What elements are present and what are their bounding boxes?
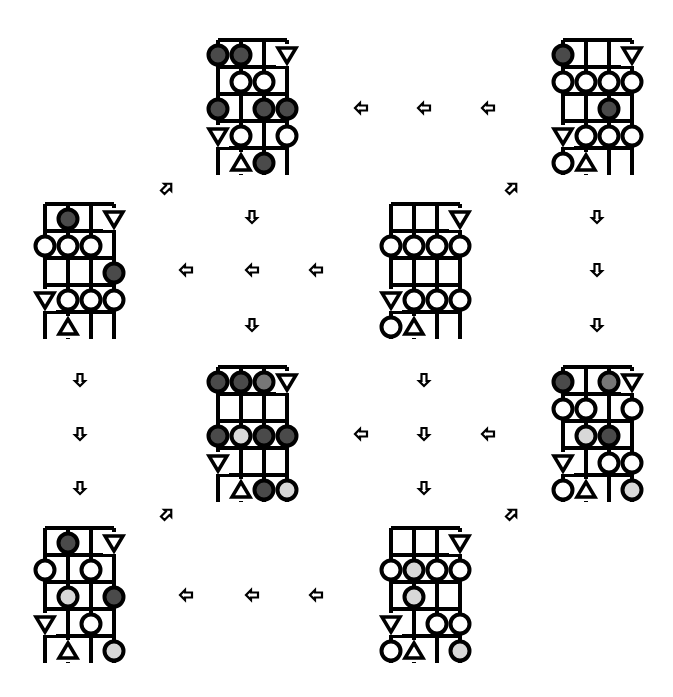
- white-circle-icon: [382, 237, 401, 256]
- arrow-left-icon: [482, 429, 494, 439]
- dark-circle-icon: [232, 373, 251, 392]
- arrow-left-icon: [418, 103, 430, 113]
- white-circle-icon: [451, 561, 470, 580]
- white-circle-icon: [405, 291, 424, 310]
- dark-circle-icon: [209, 46, 228, 65]
- white-circle-icon: [255, 73, 274, 92]
- arrow-left-icon: [310, 590, 322, 600]
- white-circle-icon: [623, 73, 642, 92]
- dark-circle-icon: [59, 534, 78, 553]
- white-circle-icon: [623, 454, 642, 473]
- white-circle-icon: [554, 154, 573, 173]
- arrow-down-icon: [75, 374, 85, 386]
- dark-circle-icon: [232, 46, 251, 65]
- arrow-left-icon: [180, 265, 192, 275]
- dark-circle-icon: [105, 588, 124, 607]
- white-circle-icon: [232, 73, 251, 92]
- dark-circle-icon: [255, 100, 274, 119]
- arrow-left-icon: [180, 590, 192, 600]
- white-circle-icon: [36, 237, 55, 256]
- white-circle-icon: [428, 561, 447, 580]
- arrow-down-icon: [247, 319, 257, 331]
- white-circle-icon: [554, 73, 573, 92]
- panel-5: [207, 367, 298, 502]
- white-circle-icon: [428, 291, 447, 310]
- light-circle-icon: [105, 642, 124, 661]
- panel-7: [34, 528, 125, 663]
- arrow-up-right-icon: [159, 180, 175, 196]
- white-circle-icon: [59, 237, 78, 256]
- dark-circle-icon: [209, 373, 228, 392]
- white-circle-icon: [554, 481, 573, 500]
- light-circle-icon: [59, 588, 78, 607]
- white-circle-icon: [232, 127, 251, 146]
- white-circle-icon: [577, 127, 596, 146]
- white-circle-icon: [428, 615, 447, 634]
- white-circle-icon: [105, 291, 124, 310]
- light-circle-icon: [405, 561, 424, 580]
- arrow-left-icon: [355, 429, 367, 439]
- white-circle-icon: [82, 615, 101, 634]
- arrow-up-right-icon: [504, 180, 520, 196]
- white-circle-icon: [577, 73, 596, 92]
- panel-8: [380, 528, 471, 663]
- white-circle-icon: [577, 400, 596, 419]
- dark-circle-icon: [554, 373, 573, 392]
- arrow-left-icon: [246, 265, 258, 275]
- white-circle-icon: [554, 400, 573, 419]
- panel-6: [552, 367, 643, 502]
- light-circle-icon: [278, 481, 297, 500]
- white-circle-icon: [82, 237, 101, 256]
- arrow-up-right-icon: [504, 506, 520, 522]
- white-circle-icon: [82, 561, 101, 580]
- light-circle-icon: [623, 481, 642, 500]
- white-circle-icon: [600, 454, 619, 473]
- dark-circle-icon: [255, 427, 274, 446]
- arrow-down-icon: [419, 374, 429, 386]
- dark-circle-icon: [600, 100, 619, 119]
- dark-circle-icon: [209, 100, 228, 119]
- dark-circle-icon: [105, 264, 124, 283]
- arrow-left-icon: [355, 103, 367, 113]
- arrow-down-icon: [592, 319, 602, 331]
- arrow-down-icon: [592, 264, 602, 276]
- panel-4: [380, 204, 471, 339]
- white-circle-icon: [451, 237, 470, 256]
- arrow-down-icon: [419, 482, 429, 494]
- white-circle-icon: [451, 615, 470, 634]
- dark-circle-icon: [278, 427, 297, 446]
- white-circle-icon: [382, 642, 401, 661]
- light-circle-icon: [405, 588, 424, 607]
- arrow-left-icon: [310, 265, 322, 275]
- arrow-down-icon: [75, 482, 85, 494]
- medium-circle-icon: [255, 373, 274, 392]
- white-circle-icon: [600, 127, 619, 146]
- light-circle-icon: [577, 427, 596, 446]
- arrow-down-icon: [419, 428, 429, 440]
- panel-3: [34, 204, 125, 339]
- arrow-left-icon: [482, 103, 494, 113]
- arrow-down-icon: [75, 428, 85, 440]
- white-circle-icon: [623, 127, 642, 146]
- panel-1: [207, 40, 298, 175]
- dark-circle-icon: [255, 154, 274, 173]
- arrow-left-icon: [246, 590, 258, 600]
- white-circle-icon: [82, 291, 101, 310]
- white-circle-icon: [36, 561, 55, 580]
- dark-circle-icon: [255, 481, 274, 500]
- arrow-down-icon: [592, 211, 602, 223]
- dark-circle-icon: [59, 210, 78, 229]
- white-circle-icon: [59, 291, 78, 310]
- arrow-up-right-icon: [159, 506, 175, 522]
- white-circle-icon: [600, 73, 619, 92]
- white-circle-icon: [278, 127, 297, 146]
- arrow-down-icon: [247, 211, 257, 223]
- dark-circle-icon: [600, 427, 619, 446]
- medium-circle-icon: [600, 373, 619, 392]
- white-circle-icon: [382, 561, 401, 580]
- white-circle-icon: [382, 318, 401, 337]
- white-circle-icon: [428, 237, 447, 256]
- white-circle-icon: [405, 237, 424, 256]
- white-circle-icon: [451, 291, 470, 310]
- light-circle-icon: [451, 642, 470, 661]
